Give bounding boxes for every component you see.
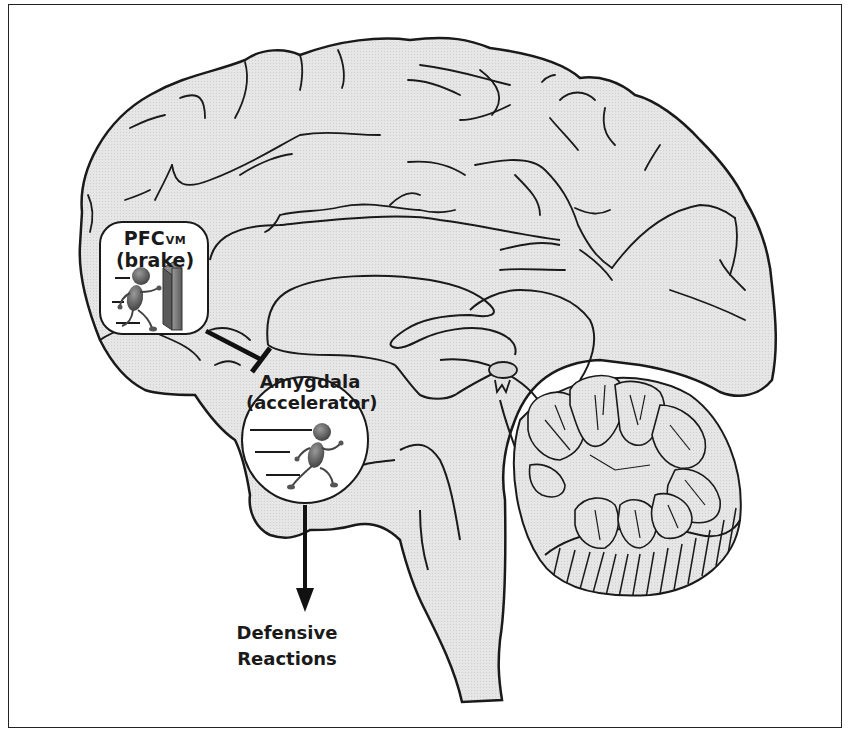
- amygdala-role-label: (accelerator): [246, 393, 374, 414]
- defensive-reactions-label: Defensive Reactions: [222, 620, 352, 672]
- cerebellum: [514, 376, 741, 604]
- pfc-label: PFCVM: [104, 228, 206, 250]
- output-line-2: Reactions: [222, 646, 352, 672]
- pfc-subscript: VM: [166, 234, 186, 247]
- pfc-role-label: (brake): [104, 250, 206, 272]
- brain-illustration: [0, 0, 850, 744]
- amygdala-label: Amygdala: [246, 372, 374, 393]
- wall-icon: [163, 262, 182, 330]
- pfc-title-text: PFC: [124, 227, 165, 249]
- output-line-1: Defensive: [222, 620, 352, 646]
- diagram-canvas: PFCVM (brake) Amygdala (accelerator) Def…: [0, 0, 850, 744]
- pineal-body: [489, 362, 517, 378]
- cerebrum: [80, 38, 776, 702]
